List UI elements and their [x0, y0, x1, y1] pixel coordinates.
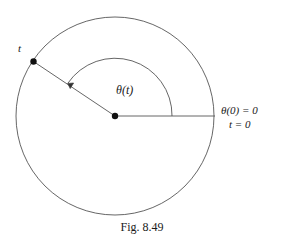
figure-container: θ(t) t θ(0) = 0 t = 0 Fig. 8.49: [0, 0, 284, 243]
point-label-t: t: [18, 43, 21, 54]
center-dot: [112, 113, 118, 119]
figure-caption: Fig. 8.49: [0, 221, 284, 233]
angle-label: θ(t): [116, 84, 133, 96]
point-on-circle-dot: [30, 58, 36, 64]
initial-time-label: t = 0: [229, 119, 250, 130]
initial-angle-label: θ(0) = 0: [221, 105, 258, 116]
rotating-radius-line: [34, 62, 116, 117]
